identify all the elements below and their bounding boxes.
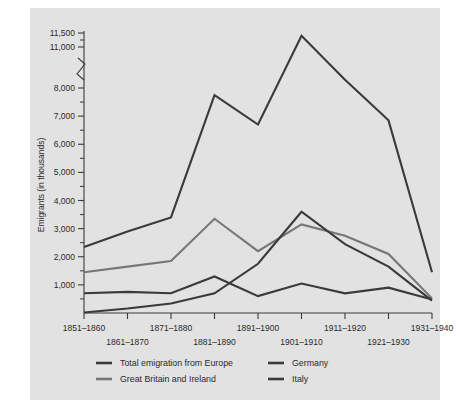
y-tick-label: 4,000 [54, 196, 76, 206]
series-line-1 [84, 219, 432, 299]
y-tick-label: 5,000 [54, 167, 76, 177]
x-tick-label: 1881–1890 [193, 337, 236, 347]
y-tick-label: 2,000 [54, 252, 76, 262]
data-series-layer [84, 36, 432, 313]
legend-label-3: Italy [292, 374, 309, 384]
y-tick-label: 1,000 [54, 280, 76, 290]
x-tick-label: 1911–1920 [324, 323, 366, 333]
x-tick-label: 1921–1930 [367, 337, 410, 347]
x-tick-label: 1901–1910 [280, 337, 323, 347]
x-axis-labels: 1851–18601861–18701871–18801881–18901891… [63, 323, 454, 347]
y-tick-label: 11,000 [50, 42, 76, 52]
x-tick-label: 1861–1870 [106, 337, 149, 347]
y-axis-ticks [78, 33, 84, 299]
x-tick-label: 1931–1940 [411, 323, 454, 333]
legend-label-2: Germany [292, 358, 329, 368]
y-tick-label: 8,000 [54, 83, 76, 93]
y-tick-label: 11,500 [50, 28, 76, 38]
y-axis-labels: 1,0002,0003,0004,0005,0006,0007,0008,000… [50, 28, 76, 290]
y-tick-label: 6,000 [54, 139, 76, 149]
y-tick-label: 3,000 [54, 224, 76, 234]
chart-container: Emigrants (in thousands) 1,0002,0003,000… [0, 0, 470, 420]
chart-legend: Total emigration from EuropeGreat Britai… [96, 358, 329, 384]
x-tick-label: 1891–1900 [237, 323, 280, 333]
legend-label-0: Total emigration from Europe [120, 358, 233, 368]
series-line-2 [84, 276, 432, 299]
y-axis-title: Emigrants (in thousands) [36, 138, 46, 233]
series-line-0 [84, 36, 432, 272]
x-tick-label: 1871–1880 [150, 323, 193, 333]
legend-label-1: Great Britain and Ireland [120, 374, 216, 384]
x-axis-ticks [84, 313, 432, 319]
emigration-line-chart: Emigrants (in thousands) 1,0002,0003,000… [0, 0, 470, 420]
series-line-3 [84, 212, 432, 313]
x-tick-label: 1851–1860 [63, 323, 106, 333]
y-tick-label: 7,000 [54, 111, 76, 121]
